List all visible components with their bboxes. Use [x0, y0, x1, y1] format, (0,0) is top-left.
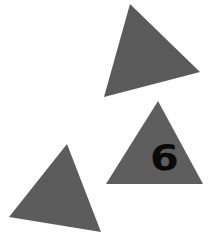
triangle-top	[104, 4, 200, 97]
triangles-canvas	[0, 0, 211, 232]
triangle-bottom-left	[9, 144, 101, 232]
number-six-label: 6	[150, 140, 179, 176]
